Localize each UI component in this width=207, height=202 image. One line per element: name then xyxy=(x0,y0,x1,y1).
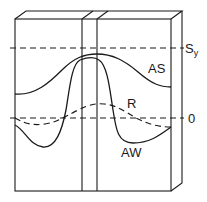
r-curve xyxy=(15,104,171,127)
plate-right-face xyxy=(171,11,182,191)
plate-diagram-graphic xyxy=(0,0,207,202)
r-curve-label: R xyxy=(127,97,136,110)
zero-label: 0 xyxy=(188,112,195,125)
yield-strength-label: Sy xyxy=(185,42,198,58)
residual-stress-diagram: Sy 0 AS R AW xyxy=(0,0,207,202)
as-curve-label: AS xyxy=(148,62,165,75)
weld-band-top-right xyxy=(97,11,108,19)
weld-band-top-left xyxy=(82,11,93,19)
aw-curve-label: AW xyxy=(121,146,141,159)
